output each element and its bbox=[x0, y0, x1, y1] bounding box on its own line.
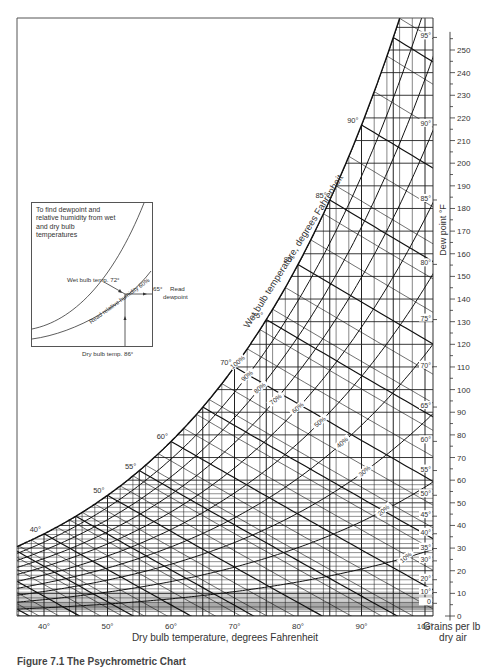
dewpoint-axis-title: Dew point °F bbox=[438, 204, 448, 256]
dewpoint-tick-label: 80° bbox=[420, 259, 431, 266]
dewpoint-tick-label: 50° bbox=[420, 490, 431, 497]
wetbulb-label: 90° bbox=[347, 116, 358, 125]
dewpoint-tick-label: 20° bbox=[420, 575, 431, 582]
inset-arrow-diag-icon bbox=[118, 289, 122, 293]
x-tick-label: 90° bbox=[355, 622, 367, 631]
grains-tick-label: 220 bbox=[457, 114, 471, 123]
wetbulb-label: 40° bbox=[30, 525, 41, 534]
grains-tick-label: 200 bbox=[457, 159, 471, 168]
dewpoint-tick-label: 10° bbox=[420, 588, 431, 595]
grains-tick-label: 170 bbox=[457, 227, 471, 236]
dewpoint-tick-label: 0 bbox=[427, 598, 431, 605]
dewpoint-tick-label: 85° bbox=[420, 195, 431, 202]
grains-tick-label: 230 bbox=[457, 91, 471, 100]
y-axis-title-grains: Grains per lb dry air bbox=[423, 621, 483, 643]
inset-wetbulb-line bbox=[104, 282, 125, 294]
grains-tick-label: 20 bbox=[457, 567, 466, 576]
grains-tick-label: 60 bbox=[457, 476, 466, 485]
x-tick-label: 60° bbox=[165, 622, 177, 631]
grains-label-line1: Grains per lb bbox=[423, 621, 481, 632]
inset-arrow-right-icon bbox=[143, 293, 147, 296]
x-tick-label: 40° bbox=[38, 622, 50, 631]
grains-tick-label: 180 bbox=[457, 204, 471, 213]
grains-tick-label: 90 bbox=[457, 408, 466, 417]
grains-tick-label: 160 bbox=[457, 250, 471, 259]
grains-tick-label: 210 bbox=[457, 137, 471, 146]
inset-rh-label: Read relative humidity 60% bbox=[88, 277, 151, 325]
grains-tick-label: 100 bbox=[457, 386, 471, 395]
dewpoint-tick-label: 95° bbox=[420, 32, 431, 39]
grains-tick-label: 30 bbox=[457, 544, 466, 553]
dewpoint-tick-label: 55° bbox=[420, 466, 431, 473]
grains-tick-label: 110 bbox=[457, 363, 470, 372]
grains-tick-label: 250 bbox=[457, 46, 471, 55]
dewpoint-tick-label: 35° bbox=[420, 544, 431, 551]
grains-tick-label: 140 bbox=[457, 295, 471, 304]
inset-title: To find dewpoint and relative humidity f… bbox=[36, 206, 116, 239]
x-tick-label: 80° bbox=[292, 622, 304, 631]
grains-tick-label: 120 bbox=[457, 340, 471, 349]
dewpoint-tick-label: 75° bbox=[420, 315, 431, 322]
figure-caption: Figure 7.1 The Psychrometric Chart bbox=[17, 656, 186, 667]
dewpoint-tick-label: 60° bbox=[420, 436, 431, 443]
x-axis-title: Dry bulb temperature, degrees Fahrenheit bbox=[132, 632, 318, 643]
grains-label-line2: dry air bbox=[439, 632, 467, 643]
grains-tick-label: 70 bbox=[457, 454, 466, 463]
dewpoint-tick-label: 70° bbox=[420, 362, 431, 369]
inset-instructions: Wet bulb temp. 72° Read relative humidit… bbox=[31, 202, 153, 347]
dewpoint-tick-label: 65° bbox=[420, 402, 431, 409]
x-tick-label: 70° bbox=[228, 622, 240, 631]
grains-tick-label: 10 bbox=[457, 589, 466, 598]
dewpoint-tick-label: 90° bbox=[420, 120, 431, 127]
dewpoint-tick-label: 40° bbox=[420, 529, 431, 536]
grains-tick-label: 80 bbox=[457, 431, 466, 440]
inset-wetbulb-label: Wet bulb temp. 72° bbox=[67, 276, 120, 283]
x-tick-label: 50° bbox=[101, 622, 113, 631]
grains-tick-label: 50 bbox=[457, 499, 466, 508]
dewpoint-tick-label: 45° bbox=[420, 511, 431, 518]
grains-tick-label: 150 bbox=[457, 272, 471, 281]
dewpoint-tick-label: 30° bbox=[420, 556, 431, 563]
wetbulb-label: 55° bbox=[125, 462, 136, 471]
wetbulb-label: 50° bbox=[93, 486, 104, 495]
inset-arrow-up-icon bbox=[124, 316, 127, 320]
grains-tick-label: 40 bbox=[457, 521, 466, 530]
wetbulb-label: 60° bbox=[157, 432, 168, 441]
grains-tick-label: 240 bbox=[457, 69, 471, 78]
grains-tick-label: 130 bbox=[457, 318, 471, 327]
grains-tick-label: 0 bbox=[457, 612, 462, 621]
grains-tick-label: 190 bbox=[457, 182, 471, 191]
